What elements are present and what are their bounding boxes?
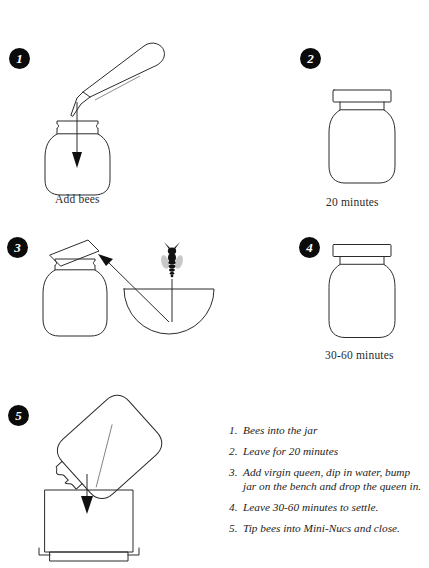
pouring-jar-shape bbox=[71, 43, 164, 116]
askew-lid-shape bbox=[50, 240, 99, 266]
list-item: 1. Bees into the jar bbox=[229, 424, 425, 438]
closed-jar-icon bbox=[325, 88, 415, 193]
figure-step-1 bbox=[40, 32, 175, 197]
open-jar-shape bbox=[43, 259, 107, 336]
list-item: 3. Add virgin queen, dip in water, bump … bbox=[229, 466, 425, 493]
jar-tipping-into-mini-nuc-icon bbox=[30, 378, 190, 563]
list-item-number: 1. bbox=[229, 424, 243, 438]
water-bowl-shape bbox=[124, 289, 214, 334]
caption-step-1: Add bees bbox=[55, 193, 100, 205]
list-item-number: 3. bbox=[229, 466, 243, 480]
bee-icon bbox=[160, 242, 185, 277]
step-badge-3: 3 bbox=[7, 237, 28, 258]
list-item-text: Bees into the jar bbox=[243, 424, 425, 438]
diagram-page: 1 Add bees 2 bbox=[0, 0, 429, 568]
list-item: 2. Leave for 20 minutes bbox=[229, 445, 425, 459]
tipped-jar-shape bbox=[42, 389, 167, 512]
list-item-text: Leave for 20 minutes bbox=[243, 445, 425, 459]
figure-step-3 bbox=[36, 232, 246, 357]
step-badge-5: 5 bbox=[8, 405, 29, 426]
caption-step-2: 20 minutes bbox=[326, 196, 379, 208]
figure-step-4 bbox=[325, 240, 415, 350]
list-item: 5. Tip bees into Mini-Nucs and close. bbox=[229, 522, 425, 536]
caption-step-4: 30-60 minutes bbox=[325, 349, 394, 361]
list-item-text: Leave 30-60 minutes to settle. bbox=[243, 501, 425, 515]
figure-step-2 bbox=[325, 88, 415, 193]
list-item-number: 2. bbox=[229, 445, 243, 459]
figure-step-5 bbox=[30, 378, 190, 563]
list-item-number: 4. bbox=[229, 501, 243, 515]
list-item-number: 5. bbox=[229, 522, 243, 536]
jar-with-pouring-jar-icon bbox=[40, 32, 175, 197]
step-badge-1: 1 bbox=[9, 48, 30, 69]
list-item-text: Tip bees into Mini-Nucs and close. bbox=[243, 522, 425, 536]
list-item-text: Add virgin queen, dip in water, bump jar… bbox=[243, 466, 425, 493]
jar-lid-ajar-bee-bowl-icon bbox=[36, 232, 246, 357]
bowl-to-jar-arrow bbox=[98, 254, 169, 322]
instructions-list: 1. Bees into the jar 2. Leave for 20 min… bbox=[229, 424, 425, 543]
closed-jar-icon bbox=[325, 240, 415, 350]
step-badge-4: 4 bbox=[299, 237, 320, 258]
list-item: 4. Leave 30-60 minutes to settle. bbox=[229, 501, 425, 515]
step-badge-2: 2 bbox=[300, 48, 321, 69]
pour-arrow bbox=[72, 102, 82, 168]
